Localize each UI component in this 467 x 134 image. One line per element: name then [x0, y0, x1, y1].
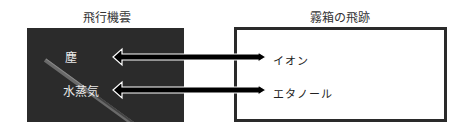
connector-arrows — [0, 0, 467, 134]
arrow-dust-ion — [113, 49, 266, 65]
arrow-vapor-ethanol — [113, 82, 266, 98]
